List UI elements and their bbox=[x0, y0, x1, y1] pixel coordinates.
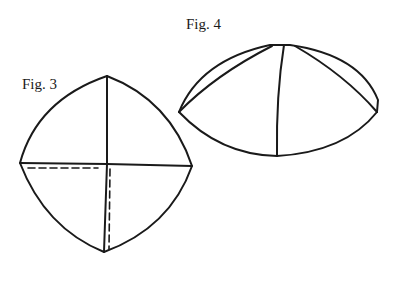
fig3-dashed-vertical bbox=[109, 169, 110, 249]
fig3-drawing bbox=[20, 76, 192, 252]
fig4-drawing bbox=[179, 45, 378, 156]
figures-canvas bbox=[0, 0, 399, 282]
fig4-center-seam bbox=[277, 45, 284, 156]
fig4-inner-left-seam bbox=[179, 46, 272, 112]
